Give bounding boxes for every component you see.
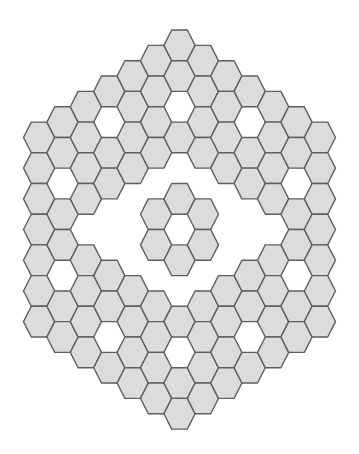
hex-cell (304, 122, 335, 153)
hex-cell (304, 276, 335, 307)
hex-cells (24, 30, 336, 429)
hex-cell (304, 184, 335, 215)
hex-cell (304, 153, 335, 184)
hex-cell (304, 214, 335, 245)
hex-cell (304, 245, 335, 276)
hex-cell (187, 230, 218, 261)
hex-cell (304, 306, 335, 337)
hex-cell (187, 199, 218, 230)
hex-board (0, 0, 359, 454)
